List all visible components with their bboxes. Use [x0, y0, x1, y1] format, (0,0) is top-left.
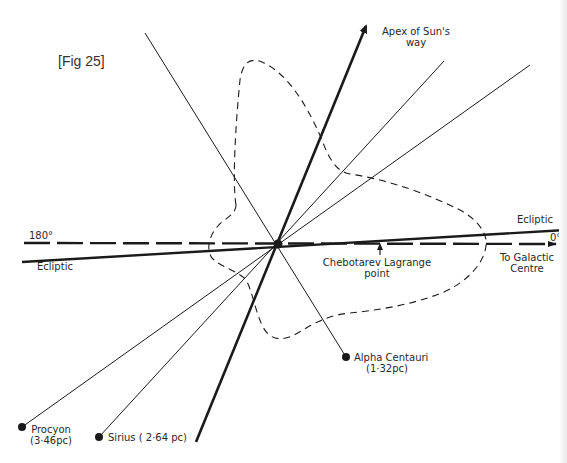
- apex-label-line2: way: [376, 37, 456, 48]
- galactic-centre-label-line2: Centre: [497, 263, 557, 274]
- alpha-centauri-dot: [342, 353, 350, 361]
- lagrange-point-label-line2: point: [322, 268, 432, 279]
- ecliptic-line: [22, 230, 566, 262]
- procyon-dot: [18, 423, 26, 431]
- page-edge-shadow: [559, 0, 567, 463]
- procyon-name: Procyon: [28, 424, 74, 435]
- galactic-centre-label-line1: To Galactic: [497, 252, 557, 263]
- alpha-centauri-label: Alpha Centauri (1·32pc): [354, 352, 420, 374]
- diagram-canvas: [0, 0, 567, 463]
- ecliptic-label-right: Ecliptic: [517, 214, 553, 225]
- apex-label: Apex of Sun's way: [376, 26, 456, 48]
- solar-apex-arrow: [196, 26, 366, 442]
- longitude-180-label: 180°: [29, 230, 53, 241]
- galactic-centre-label: To Galactic Centre: [497, 252, 557, 274]
- ecliptic-label-left: Ecliptic: [37, 261, 73, 272]
- lagrange-point-label: Chebotarev Lagrange point: [322, 257, 432, 279]
- galactic-axis-dashed-line: [24, 243, 556, 244]
- alpha-centauri-distance: (1·32pc): [354, 363, 420, 374]
- figure-label: [Fig 25]: [58, 56, 105, 67]
- dashed-boundary-curve: [209, 60, 486, 338]
- sirius-line: [99, 61, 444, 437]
- sirius-dot: [95, 433, 103, 441]
- alpha-centauri-name: Alpha Centauri: [354, 352, 420, 363]
- procyon-distance: (3·46pc): [28, 435, 74, 446]
- apex-label-line1: Apex of Sun's: [376, 26, 456, 37]
- procyon-label: Procyon (3·46pc): [28, 424, 74, 446]
- lagrange-point-label-line1: Chebotarev Lagrange: [322, 257, 432, 268]
- alpha-centauri-line: [145, 33, 346, 357]
- sirius-label: Sirius ( 2·64 pc): [108, 432, 187, 443]
- sun-dot: [274, 240, 283, 249]
